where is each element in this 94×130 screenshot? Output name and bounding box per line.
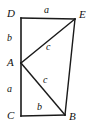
side-label-AC: a bbox=[7, 84, 12, 94]
side-label-DE: a bbox=[44, 5, 49, 15]
vertex-label-A: A bbox=[7, 57, 14, 68]
vertex-label-E: E bbox=[79, 9, 86, 20]
segment-DE bbox=[21, 18, 75, 19]
side-label-CB: b bbox=[37, 102, 42, 112]
vertex-label-C: C bbox=[7, 110, 14, 121]
vertex-label-D: D bbox=[7, 8, 15, 19]
side-label-AB: c bbox=[43, 75, 47, 85]
vertex-label-B: B bbox=[69, 111, 76, 122]
side-label-AE: c bbox=[46, 42, 50, 52]
geometry-figure: D E A C B a b a b c c bbox=[0, 0, 94, 130]
segment-EB bbox=[65, 19, 75, 115]
segment-CB bbox=[21, 115, 65, 116]
segment-AB bbox=[21, 63, 65, 115]
side-label-DA: b bbox=[7, 33, 12, 43]
